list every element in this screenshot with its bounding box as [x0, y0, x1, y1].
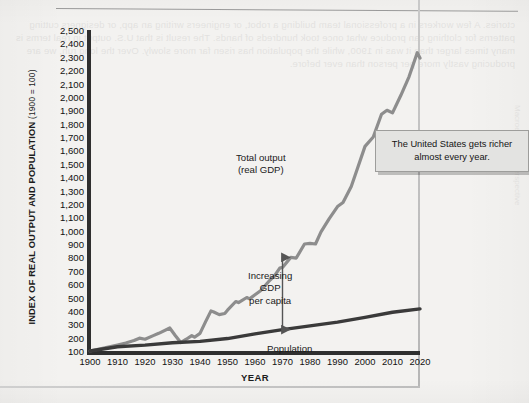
series-label-population: Population — [267, 343, 312, 355]
y-axis-tick-500: 500 — [42, 292, 84, 303]
series-line-population — [90, 309, 420, 351]
y-axis-tick-200: 200 — [42, 332, 84, 343]
series-label-total-output: Total output (real GDP) — [236, 152, 286, 177]
annotation-increasing-gdp-per-capita: Increasing GDP per capita — [248, 270, 292, 307]
x-axis-tick-1900: 1900 — [80, 356, 101, 367]
y-axis-tick-2100: 2,100 — [42, 78, 84, 89]
series-label-total-output-line2: (real GDP) — [238, 164, 284, 175]
x-axis-title: YEAR — [90, 372, 420, 383]
y-axis-tick-800: 800 — [42, 252, 84, 263]
gap-label-line2: GDP — [260, 282, 281, 293]
y-axis-tick-1500: 1,500 — [42, 158, 84, 169]
y-axis-tick-2000: 2,000 — [42, 91, 84, 102]
x-axis-tick-1960: 1960 — [245, 356, 266, 367]
y-axis-tick-1000: 1,000 — [42, 225, 84, 236]
x-axis-tick-1970: 1970 — [272, 356, 293, 367]
y-axis-tick-1900: 1,900 — [42, 105, 84, 116]
y-axis-tick-600: 600 — [42, 279, 84, 290]
callout-box: The United States gets richer almost eve… — [375, 130, 529, 172]
y-axis-title-main: INDEX OF REAL OUTPUT AND POPULATION — [27, 122, 37, 325]
x-axis-tick-2000: 2000 — [355, 356, 376, 367]
y-axis-tick-1800: 1,800 — [42, 118, 84, 129]
figure-panel: INDEX OF REAL OUTPUT AND POPULATION (190… — [0, 0, 429, 390]
x-axis-tick-1950: 1950 — [217, 356, 238, 367]
y-axis-tick-2200: 2,200 — [42, 65, 84, 76]
y-axis-title: INDEX OF REAL OUTPUT AND POPULATION (190… — [27, 47, 37, 347]
y-axis-tick-400: 400 — [42, 305, 84, 316]
y-axis-tick-1200: 1,200 — [42, 198, 84, 209]
x-axis-tick-1940: 1940 — [190, 356, 211, 367]
y-axis-tick-2500: 2,500 — [42, 25, 84, 36]
gap-label-line3: per capita — [249, 295, 291, 306]
y-axis-tick-1600: 1,600 — [42, 145, 84, 156]
y-axis-tick-300: 300 — [42, 319, 84, 330]
y-axis-title-unit: (1900 = 100) — [27, 69, 37, 119]
y-axis-tick-100: 100 — [42, 346, 84, 357]
panel-bottom-edge — [0, 386, 420, 388]
y-axis-tick-1100: 1,100 — [42, 212, 84, 223]
series-label-total-output-line1: Total output — [236, 152, 286, 163]
plot-area: 1002003004005006007008009001,0001,1001,2… — [90, 30, 420, 352]
y-axis-tick-2300: 2,300 — [42, 51, 84, 62]
y-axis-tick-1400: 1,400 — [42, 172, 84, 183]
x-axis-tick-1990: 1990 — [327, 356, 348, 367]
x-axis-tick-2010: 2010 — [382, 356, 403, 367]
x-axis-tick-1920: 1920 — [135, 356, 156, 367]
x-axis-tick-1980: 1980 — [300, 356, 321, 367]
y-axis-tick-2400: 2,400 — [42, 38, 84, 49]
x-axis-tick-1930: 1930 — [162, 356, 183, 367]
x-axis-tick-1910: 1910 — [107, 356, 128, 367]
y-axis-tick-1300: 1,300 — [42, 185, 84, 196]
x-axis-tick-2020: 2020 — [410, 356, 431, 367]
y-axis-tick-900: 900 — [42, 239, 84, 250]
gap-label-line1: Increasing — [248, 270, 292, 281]
y-axis-tick-1700: 1,700 — [42, 132, 84, 143]
y-axis-tick-700: 700 — [42, 265, 84, 276]
